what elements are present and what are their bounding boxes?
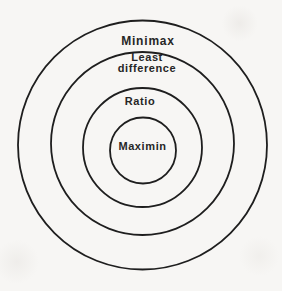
least-difference-label-line2: difference [118, 62, 177, 74]
scanned-diagram-page: Minimax Least difference Ratio Maximin [0, 0, 282, 291]
minimax-label: Minimax [121, 34, 175, 48]
ratio-label: Ratio [125, 95, 156, 107]
concentric-circles-diagram: Minimax Least difference Ratio Maximin [0, 0, 282, 291]
maximin-label: Maximin [118, 140, 166, 152]
